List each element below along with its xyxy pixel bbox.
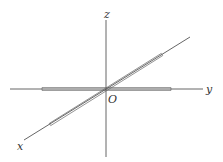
x-axis-label: x xyxy=(17,140,24,153)
x-axis-double-a xyxy=(49,53,161,123)
coordinate-axes-diagram: z y x O xyxy=(0,0,223,162)
x-axis xyxy=(24,37,190,140)
origin-label: O xyxy=(108,93,117,106)
z-axis-label: z xyxy=(103,8,110,21)
y-axis-label: y xyxy=(205,83,213,96)
